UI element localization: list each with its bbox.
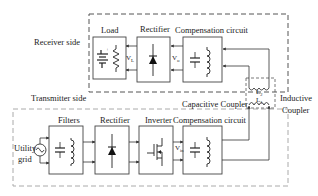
rx-compensation-label: Compensation circuit <box>175 26 248 35</box>
tx-compensation-block <box>183 126 222 174</box>
grid-label: grid <box>18 155 32 164</box>
receiver-side-label: Receiver side <box>34 38 80 47</box>
vo-label: Vo <box>172 55 180 63</box>
svg-text:+: + <box>106 47 109 52</box>
filters-block <box>49 126 83 174</box>
inductive-label: Inductive <box>280 94 312 103</box>
l1-label: L1 <box>256 97 263 106</box>
coupler-label: Coupler <box>282 106 309 115</box>
tx-rectifier-label: Rectifier <box>100 116 130 125</box>
utility-label: Utility <box>14 144 36 153</box>
filters-label: Filters <box>58 116 80 125</box>
vl-label: VL <box>126 55 134 63</box>
capacitive-coupler-label: Capacitive Coupler <box>182 100 248 109</box>
load-label: Load <box>101 26 118 35</box>
transmitter-side-label: Transmitter side <box>31 94 86 103</box>
inverter-label: Inverter <box>145 116 172 125</box>
rx-rectifier-label: Rectifier <box>140 25 170 34</box>
tx-compensation-label: Compensation circuit <box>173 116 246 125</box>
inverter-block <box>139 126 173 174</box>
rx-compensation-block <box>183 37 222 82</box>
load-block <box>93 37 126 79</box>
vin-label: Vin <box>175 145 184 154</box>
